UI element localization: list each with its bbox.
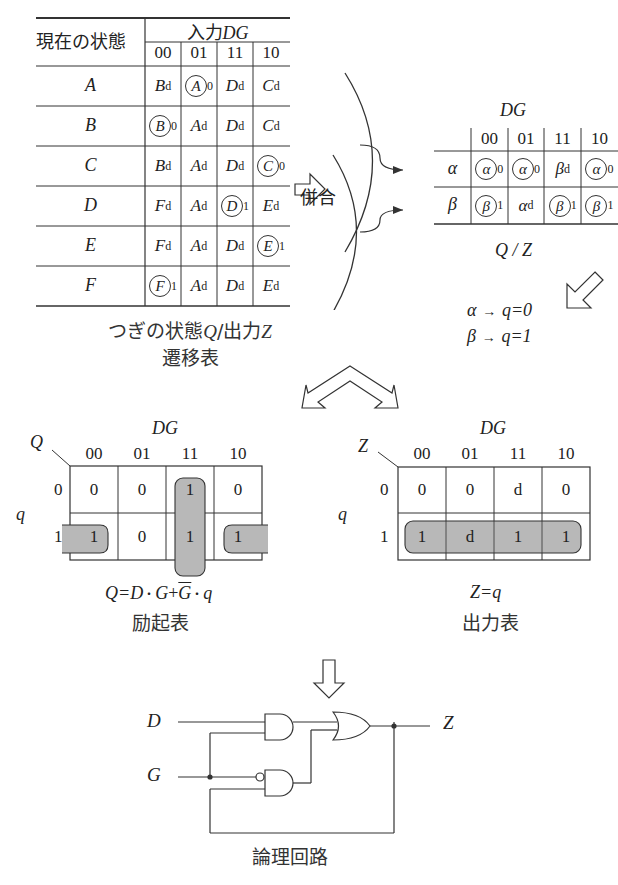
out-cell: 0 <box>542 480 590 500</box>
output-subscript: d <box>201 199 207 214</box>
out-cell: d <box>446 527 494 547</box>
assign-state: β <box>467 326 476 346</box>
circled-state: E <box>257 235 279 257</box>
merged-state-alpha: α <box>434 158 471 179</box>
circled-state: B <box>149 115 171 137</box>
state-symbol: A <box>191 116 201 136</box>
out-cell: 1 <box>494 527 542 547</box>
table-cell: α0 <box>508 151 545 188</box>
state-symbol: A <box>191 156 201 176</box>
ex-cell: 1 <box>70 527 118 547</box>
eq-g-bar: G <box>178 583 191 603</box>
eq-dot: ・ <box>191 588 203 602</box>
ex-cell: 0 <box>214 480 262 500</box>
output-subscript: 1 <box>243 199 249 214</box>
state-symbol: A <box>191 196 201 216</box>
out-row-label: 1 <box>380 527 389 547</box>
circuit-input-d: D <box>147 710 161 732</box>
circled-state: β <box>549 195 571 217</box>
out-col-header: 01 <box>446 444 494 464</box>
merged-cells: α0α0βdα0β1αdβ1β1 <box>471 151 618 224</box>
ex-cell: 1 <box>166 480 214 500</box>
state-symbol: F <box>155 236 165 256</box>
state-symbol: D <box>226 116 238 136</box>
arrowhead-icon <box>393 206 403 214</box>
circled-state: β <box>475 195 497 217</box>
col-header-11: 11 <box>217 43 253 63</box>
table-cell: Ed <box>253 266 289 306</box>
state-symbol: C <box>262 116 273 136</box>
ex-cell: 1 <box>214 527 262 547</box>
out-col-header: 11 <box>494 444 542 464</box>
ex-col-header: 01 <box>118 444 166 464</box>
state-symbol: D <box>226 156 238 176</box>
transition-caption-line1: つぎの状態Q/出力Z <box>60 316 320 343</box>
circuit-input-g: G <box>147 764 161 786</box>
output-subscript: d <box>273 279 279 294</box>
state-symbol: E <box>263 276 273 296</box>
caption-q: Q <box>203 321 217 342</box>
state-symbol: B <box>155 76 165 96</box>
table-cell: Ad <box>181 186 217 226</box>
merged-state-beta: β <box>434 194 471 215</box>
output-subscript: d <box>201 279 207 294</box>
ex-row-var: q <box>16 504 25 525</box>
table-cell: Bd <box>145 66 181 106</box>
table-cell: Fd <box>145 226 181 266</box>
output-subscript: d <box>165 79 171 94</box>
arrow-icon: → <box>482 330 496 345</box>
output-subscript: d <box>528 198 534 213</box>
circled-state: α <box>585 158 607 180</box>
table-cell: α0 <box>581 151 618 188</box>
circuit-caption: 論理回路 <box>230 842 350 869</box>
lower-curve-arrow <box>360 210 403 232</box>
state-symbol: D <box>226 276 238 296</box>
table-cell: D1 <box>217 186 253 226</box>
eq-q: q <box>203 583 212 603</box>
excitation-caption: 励起表 <box>110 608 210 635</box>
output-caption: 出力表 <box>440 608 540 635</box>
or-gate <box>333 712 370 740</box>
assignment-alpha: α → q=0 <box>467 299 532 321</box>
state-label: C <box>36 155 145 176</box>
row-header-current-state: 現在の状態 <box>36 27 145 53</box>
merged-col-header: 01 <box>508 129 544 149</box>
circuit-output-z: Z <box>443 712 454 734</box>
output-subscript: d <box>238 159 244 174</box>
state-symbol: α <box>519 196 528 216</box>
ex-cell: 0 <box>118 480 166 500</box>
caption-z: Z <box>261 321 272 342</box>
state-label: D <box>36 195 145 216</box>
out-cell: d <box>494 480 542 500</box>
ex-col-header: 00 <box>70 444 118 464</box>
merged-col-header: 00 <box>471 129 508 149</box>
ex-row-label: 0 <box>54 480 63 500</box>
down-left-hollow-arrow-icon <box>565 270 607 312</box>
transition-cells: BdA0DdCdB0AdDdCdBdAdDdC0FdAdD1EdFdAdDdE1… <box>145 66 290 306</box>
split-hollow-arrow-icon <box>300 363 400 411</box>
output-subscript: d <box>274 79 280 94</box>
state-label: E <box>36 235 145 256</box>
out-cell: 1 <box>398 527 446 547</box>
output-equation: Z=q <box>470 582 501 603</box>
lower-bracket-arc <box>333 155 357 310</box>
output-subscript: d <box>165 199 171 214</box>
caption-next-state: つぎの状態 <box>108 320 203 342</box>
logic-circuit <box>130 640 480 840</box>
excitation-title: DG <box>152 418 178 439</box>
output-subscript: 1 <box>607 198 613 213</box>
junction-dot <box>207 774 212 779</box>
circled-state: F <box>149 275 171 297</box>
table-cell: Ed <box>253 186 289 226</box>
table-cell: Dd <box>217 106 253 146</box>
state-symbol: C <box>262 76 273 96</box>
out-cell: 1 <box>542 527 590 547</box>
input-header-var: DG <box>223 23 249 43</box>
output-subscript: 0 <box>171 119 177 134</box>
table-cell: Ad <box>181 146 217 186</box>
table-cell: B0 <box>145 106 181 146</box>
arrow-icon: → <box>482 304 496 319</box>
output-subscript: d <box>238 239 244 254</box>
table-cell: Fd <box>145 186 181 226</box>
state-symbol: E <box>263 196 273 216</box>
